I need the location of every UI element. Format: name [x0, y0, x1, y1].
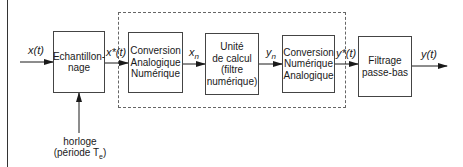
clock-line1: horloge [50, 136, 110, 147]
block-label-line: nage [53, 62, 105, 74]
block-label-line: numérique) [207, 76, 258, 88]
signal-text: y*(t) [336, 47, 356, 59]
block-label-line: Conversion [130, 45, 181, 57]
signal-text: x(t) [28, 44, 44, 56]
clock-period-text: (période T [54, 147, 99, 158]
clock-label: horloge (période Te) [50, 136, 110, 162]
block-label-line: Filtrage [362, 55, 408, 67]
signal-label-xn: xn [189, 46, 199, 61]
clock-period-close: ) [103, 147, 106, 158]
block-label-line: passe-bas [362, 67, 408, 79]
block-label-line: Unité [207, 41, 258, 53]
block-conversion-analogique-numerique: Conversion Analogique Numérique [128, 32, 183, 93]
signal-subscript: n [272, 52, 276, 61]
signal-label-yn: yn [266, 46, 276, 61]
block-echantillonnage: Echantillon- nage [53, 31, 105, 93]
block-label-line: Analogique [283, 70, 334, 82]
signal-label-input: x(t) [28, 44, 44, 56]
block-label-line: Conversion [283, 47, 334, 59]
block-unite-de-calcul: Unité de calcul (filtre numérique) [205, 33, 259, 95]
signal-label-reconstructed: y*(t) [336, 47, 356, 59]
block-label-line: de calcul [207, 53, 258, 65]
clock-line2: (période Te) [50, 147, 110, 162]
signal-text: x*(t) [106, 46, 126, 58]
block-label-line: Numérique [130, 68, 181, 80]
signal-label-output: y(t) [421, 48, 437, 60]
signal-label-sampled: x*(t) [106, 46, 126, 58]
block-label-line: (filtre [207, 64, 258, 76]
block-label-line: Echantillon- [53, 51, 105, 63]
signal-text: y(t) [421, 48, 437, 60]
block-label-line: Numérique [283, 58, 334, 70]
block-label-line: Analogique [130, 57, 181, 69]
block-conversion-numerique-analogique: Conversion Numérique Analogique [282, 35, 335, 93]
signal-subscript: n [195, 52, 199, 61]
block-filtrage-passe-bas: Filtrage passe-bas [358, 36, 412, 97]
